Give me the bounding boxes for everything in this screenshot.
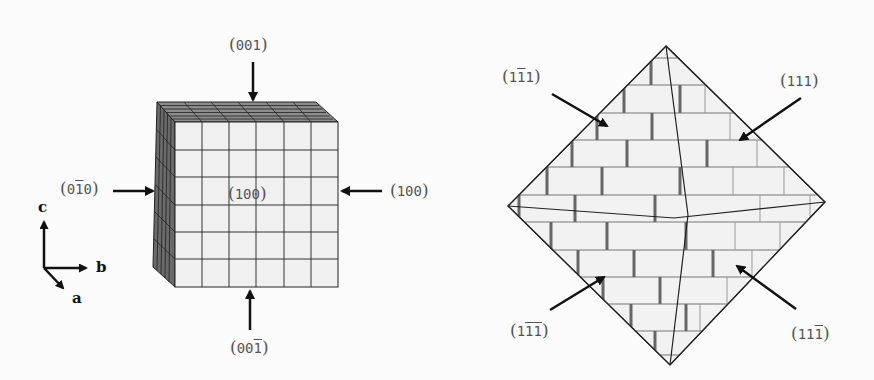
label-00-1: (001) (230, 337, 269, 357)
label-0-10: (010) (60, 178, 99, 198)
label-1-1-1: (111) (510, 320, 549, 340)
label-1-11: (111) (502, 66, 541, 86)
axis-triad (44, 222, 86, 288)
label-100-right: (100) (390, 180, 429, 200)
axis-label-a: a (72, 289, 82, 307)
diagram-graphics (0, 0, 874, 380)
label-111: (111) (780, 70, 819, 90)
label-100-center: (100) (228, 183, 267, 203)
axis-label-b: b (96, 258, 107, 276)
arrow-1-1-1 (550, 277, 604, 310)
axis-label-c: c (38, 198, 47, 216)
arrow-11-1 (737, 266, 796, 309)
label-001: (001) (229, 34, 268, 54)
octahedron (500, 46, 830, 365)
arrow-111 (740, 98, 801, 140)
arrow-1-11 (552, 94, 607, 126)
crystal-facet-diagram: (001) (010) (100) (100) (001) c b a (111… (0, 0, 874, 380)
label-11-1: (111) (791, 323, 830, 343)
